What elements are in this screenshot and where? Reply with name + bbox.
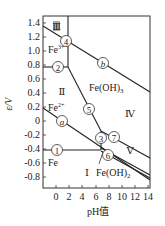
marker-b: b [98, 58, 109, 69]
svg-text:a: a [60, 117, 65, 127]
marker-6: 6 [103, 150, 114, 161]
region-II: Ⅱ [59, 86, 66, 97]
svg-text:1.4: 1.4 [28, 17, 41, 28]
y-axis-label: ε/V [3, 96, 14, 111]
svg-text:0.4: 0.4 [28, 87, 41, 98]
svg-text:-0.6: -0.6 [24, 157, 40, 168]
svg-text:3: 3 [99, 134, 104, 144]
region-III: Ⅲ [52, 22, 61, 32]
svg-text:1.0: 1.0 [28, 45, 41, 56]
region-I: Ⅰ [85, 167, 89, 178]
svg-text:12: 12 [130, 191, 140, 202]
svg-text:8: 8 [107, 191, 112, 202]
marker-3: 3 [96, 133, 107, 144]
svg-text:5: 5 [87, 105, 92, 115]
line-5 [68, 67, 101, 131]
svg-text:-0.4: -0.4 [24, 143, 40, 154]
svg-text:0.8: 0.8 [28, 59, 41, 70]
svg-text:b: b [101, 59, 106, 69]
species-feoh2: Fe(OH)2 [96, 167, 131, 180]
marker-7: 7 [109, 132, 120, 143]
x-axis-label: pH值 [87, 205, 109, 217]
svg-text:6: 6 [106, 151, 111, 161]
pourbaix-diagram: 1.4 1.2 1.0 0.8 0.6 0.4 0.2 0 -0.2 -0.4 … [0, 0, 165, 226]
svg-text:4: 4 [64, 37, 69, 47]
svg-text:1: 1 [55, 146, 60, 156]
svg-text:0: 0 [35, 115, 40, 126]
svg-text:1.2: 1.2 [28, 31, 41, 42]
x-tick-labels: 0 2 4 6 8 10 12 14 [54, 191, 154, 202]
svg-text:7: 7 [112, 133, 117, 143]
svg-text:2: 2 [56, 63, 61, 73]
svg-text:6: 6 [94, 191, 99, 202]
svg-text:10: 10 [117, 191, 127, 202]
marker-2: 2 [53, 62, 64, 73]
svg-text:-0.2: -0.2 [24, 129, 40, 140]
marker-5: 5 [84, 104, 95, 115]
svg-text:0.6: 0.6 [28, 73, 41, 84]
region-IV: Ⅳ [125, 108, 136, 119]
svg-text:2: 2 [67, 191, 72, 202]
line-label-markers: 4 2 b 5 a 3 7 1 6 [52, 36, 120, 161]
svg-text:4: 4 [80, 191, 85, 202]
region-V: Ⅴ [125, 145, 134, 156]
marker-a: a [57, 116, 68, 127]
species-fe3: Fe3+ [48, 44, 65, 55]
svg-text:0.2: 0.2 [28, 101, 41, 112]
species-fe2: Fe2+ [48, 102, 65, 113]
svg-text:0: 0 [54, 191, 59, 202]
y-tick-labels: 1.4 1.2 1.0 0.8 0.6 0.4 0.2 0 -0.2 -0.4 … [24, 17, 40, 182]
species-fe: Fe [48, 157, 59, 168]
marker-1: 1 [52, 145, 63, 156]
svg-text:-0.8: -0.8 [24, 171, 40, 182]
svg-text:14: 14 [143, 191, 153, 202]
species-feoh3: Fe(OH)3 [89, 82, 124, 95]
